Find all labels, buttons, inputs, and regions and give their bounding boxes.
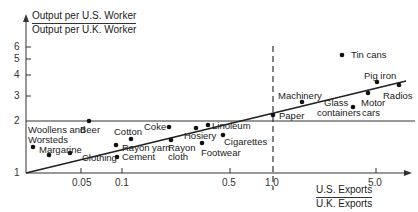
label-beer: Beer (80, 125, 100, 135)
label-machinery: Machinery (278, 91, 322, 101)
y-tick-5: 5 (14, 53, 20, 64)
x-axis-title-numerator: U.S. Exports (316, 184, 372, 198)
x-tick-0.5: 0.5 (222, 177, 236, 188)
x-ticks (81, 168, 376, 173)
y-axis-title-numerator: Output per U.S. Worker (32, 10, 136, 24)
y-axis-arrow-icon (23, 14, 29, 22)
x-axis-arrow-icon (404, 170, 412, 176)
label-cotton: Cotton (114, 127, 142, 137)
y-tick-1: 1 (14, 167, 20, 178)
label-pig-iron: Pig iron (364, 71, 396, 81)
label-cars: cars (362, 108, 380, 118)
y-axis-title-denominator: Output per U.K. Worker (32, 24, 136, 36)
y-tick-4: 4 (14, 69, 20, 80)
y-tick-3: 3 (14, 90, 20, 101)
label-clothing: Clothing (82, 153, 117, 163)
label-coke: Coke (144, 122, 166, 132)
label-cigarettes: Cigarettes (224, 137, 267, 147)
label-tin-cans: Tin cans (351, 50, 387, 60)
y-axis-title: Output per U.S. Worker Output per U.K. W… (32, 10, 136, 36)
label-linoleum: Linoleum (212, 121, 251, 131)
x-tick-0.1: 0.1 (115, 177, 129, 188)
label-footwear: Footwear (201, 148, 241, 158)
y-tick-6: 6 (14, 41, 20, 52)
y-ticks (26, 47, 31, 96)
scatter-chart: Output per U.S. Worker Output per U.K. W… (0, 0, 418, 212)
label-margarine: Margarine (39, 145, 82, 155)
label-cloth: cloth (168, 152, 188, 162)
label-cement: Cement (122, 152, 155, 162)
label-containers: containers (317, 108, 361, 118)
label-hosiery: Hosiery (184, 131, 216, 141)
label-radios: Radios (383, 91, 413, 101)
x-tick-1.0: 1.0 (265, 177, 279, 188)
x-axis-title: U.S. Exports U.K. Exports (316, 184, 372, 210)
x-tick-0.05: 0.05 (72, 177, 91, 188)
y-tick-2: 2 (14, 115, 20, 126)
x-axis-title-denominator: U.K. Exports (316, 198, 372, 210)
label-paper: Paper (279, 111, 304, 121)
